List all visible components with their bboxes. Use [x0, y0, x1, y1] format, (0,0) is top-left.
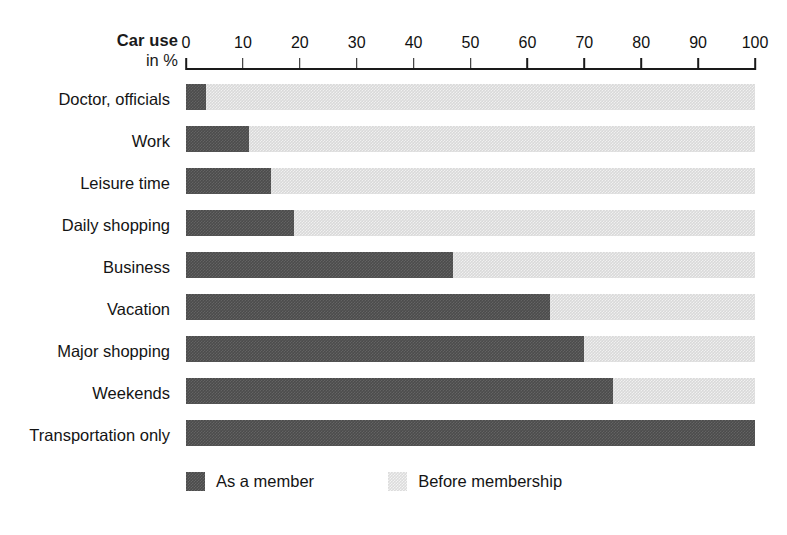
bar-value-as-a-member — [186, 336, 584, 362]
bar-row — [186, 246, 755, 288]
axis-title-line2: in % — [20, 50, 178, 70]
legend-item[interactable]: Before membership — [388, 472, 562, 491]
bar-row — [186, 288, 755, 330]
category-label: Business — [103, 258, 170, 277]
tick-mark-30 — [356, 58, 358, 69]
bar-value-as-a-member — [186, 378, 613, 404]
tick-mark-40 — [413, 58, 415, 69]
tick-label-10: 10 — [234, 34, 252, 52]
legend-swatch-light — [388, 472, 407, 491]
bar-background-before-membership — [186, 126, 755, 152]
bar-row — [186, 120, 755, 162]
legend: As a memberBefore membership — [186, 472, 562, 491]
bar-value-as-a-member — [186, 168, 271, 194]
bar-rows — [186, 78, 755, 456]
bar-row — [186, 372, 755, 414]
category-label-row: Vacation — [0, 288, 178, 330]
tick-label-70: 70 — [575, 34, 593, 52]
tick-label-90: 90 — [689, 34, 707, 52]
bar-value-as-a-member — [186, 420, 755, 446]
bar-chart: Car use in % Doctor, officialsWorkLeisur… — [0, 0, 787, 535]
category-label-row: Business — [0, 246, 178, 288]
tick-mark-80 — [640, 58, 642, 69]
bar-value-as-a-member — [186, 294, 550, 320]
bar-value-as-a-member — [186, 126, 249, 152]
category-label-row: Work — [0, 120, 178, 162]
plot-area: 0102030405060708090100 — [186, 34, 755, 454]
bar-row — [186, 204, 755, 246]
bar-value-as-a-member — [186, 252, 453, 278]
bar-value-as-a-member — [186, 84, 206, 110]
category-label: Weekends — [92, 384, 170, 403]
tick-mark-50 — [470, 58, 472, 69]
tick-label-40: 40 — [405, 34, 423, 52]
axis-title-line1: Car use — [20, 30, 178, 50]
category-label: Leisure time — [80, 174, 170, 193]
category-label: Vacation — [107, 300, 170, 319]
category-label: Daily shopping — [62, 216, 170, 235]
tick-label-0: 0 — [182, 34, 191, 52]
bar-row — [186, 162, 755, 204]
tick-label-100: 100 — [742, 34, 769, 52]
category-label-row: Leisure time — [0, 162, 178, 204]
tick-mark-100 — [754, 58, 756, 70]
tick-mark-20 — [299, 58, 301, 69]
category-label-row: Major shopping — [0, 330, 178, 372]
bar-background-before-membership — [186, 84, 755, 110]
category-label-row: Transportation only — [0, 414, 178, 456]
category-label-row: Doctor, officials — [0, 78, 178, 120]
bar-value-as-a-member — [186, 210, 294, 236]
tick-mark-0 — [185, 58, 187, 70]
category-label: Major shopping — [57, 342, 170, 361]
tick-label-50: 50 — [462, 34, 480, 52]
category-label: Work — [132, 132, 170, 151]
tick-label-30: 30 — [348, 34, 366, 52]
tick-mark-70 — [584, 58, 586, 69]
category-label-row: Weekends — [0, 372, 178, 414]
tick-mark-90 — [697, 58, 699, 69]
tick-mark-60 — [527, 58, 529, 69]
legend-label: As a member — [216, 472, 314, 491]
category-label: Doctor, officials — [58, 90, 170, 109]
tick-label-80: 80 — [632, 34, 650, 52]
tick-label-60: 60 — [518, 34, 536, 52]
category-label: Transportation only — [29, 426, 170, 445]
axis-title: Car use in % — [20, 30, 178, 70]
category-axis-labels: Doctor, officialsWorkLeisure timeDaily s… — [0, 78, 178, 456]
bar-background-before-membership — [186, 168, 755, 194]
tick-mark-10 — [242, 58, 244, 69]
bar-row — [186, 414, 755, 456]
legend-label: Before membership — [418, 472, 562, 491]
tick-label-20: 20 — [291, 34, 309, 52]
legend-swatch-dark — [186, 472, 205, 491]
category-label-row: Daily shopping — [0, 204, 178, 246]
legend-item[interactable]: As a member — [186, 472, 314, 491]
bar-row — [186, 330, 755, 372]
bar-row — [186, 78, 755, 120]
